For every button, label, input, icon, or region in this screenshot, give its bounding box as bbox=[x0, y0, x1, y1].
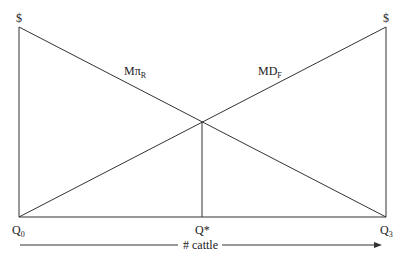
q0-main: Q bbox=[12, 223, 21, 237]
arrowhead-icon bbox=[374, 242, 382, 248]
left-dollar-label: $ bbox=[16, 12, 22, 24]
q3-main: Q bbox=[380, 223, 389, 237]
q3-sub: 3 bbox=[389, 230, 393, 239]
q0-sub: 0 bbox=[21, 230, 25, 239]
right-dollar-label: $ bbox=[383, 12, 389, 24]
x-axis-caption: # cattle bbox=[183, 239, 218, 251]
diagram-canvas bbox=[0, 0, 405, 261]
md-main: MD bbox=[258, 64, 277, 78]
marginal-profit-label: MπR bbox=[124, 65, 146, 80]
q3-label: Q3 bbox=[380, 224, 393, 239]
marginal-damage-label: MDF bbox=[258, 65, 282, 80]
qstar-label: Q* bbox=[195, 224, 210, 236]
q0-label: Q0 bbox=[12, 224, 25, 239]
mpi-sub: R bbox=[141, 71, 146, 80]
md-sub: F bbox=[277, 71, 281, 80]
mpi-main: Mπ bbox=[124, 64, 141, 78]
